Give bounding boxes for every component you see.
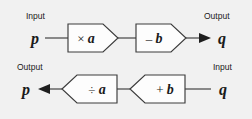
divide-operand: a (99, 82, 106, 97)
top-input-variable: p (29, 30, 39, 48)
multiply-operand: a (88, 31, 95, 46)
divide-operator: ÷ (88, 82, 95, 97)
add-operand: b (167, 82, 174, 97)
subtract-operand: b (155, 31, 162, 46)
arrowhead-left-icon (38, 84, 50, 94)
multiply-machine-label: × a (77, 31, 95, 46)
bottom-output-variable: p (20, 81, 30, 99)
top-output-variable: q (218, 30, 226, 48)
add-operator: + (156, 82, 163, 97)
bottom-output-label: Output (17, 62, 43, 72)
bottom-input-variable: q (219, 81, 227, 99)
add-machine-label: + b (156, 82, 174, 97)
top-output-label: Output (204, 11, 230, 21)
bottom-input-label: Input (213, 62, 233, 72)
top-input-label: Input (26, 11, 46, 21)
function-machine-canvas: × a – b Input p Output q ÷ a + b (0, 0, 252, 119)
subtract-machine-label: – b (145, 31, 163, 46)
arrowhead-right-icon (199, 33, 211, 43)
function-machine-diagram: × a – b Input p Output q ÷ a + b (0, 0, 252, 119)
divide-machine-label: ÷ a (88, 82, 105, 97)
multiply-operator: × (77, 31, 84, 46)
